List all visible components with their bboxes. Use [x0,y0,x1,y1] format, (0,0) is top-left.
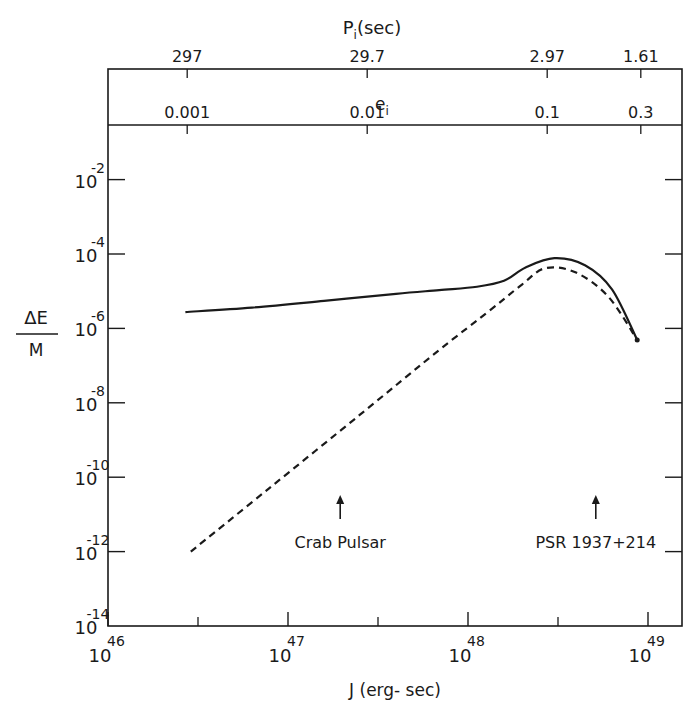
top-axis-period-label: Pi(sec) [343,17,402,42]
top-tick-ecc: 0.001 [164,103,210,122]
y-tick-label: 10-12 [75,532,110,564]
svg-text:-6: -6 [91,308,105,324]
svg-text:Crab Pulsar: Crab Pulsar [294,533,386,552]
annotations: Crab PulsarPSR 1937+214 [294,495,656,552]
svg-text:49: 49 [647,633,665,649]
svg-text:-14: -14 [87,606,110,622]
top-tick-ecc: 0.1 [534,103,559,122]
top-tick-period: 29.7 [349,47,385,66]
top-tick-period: 297 [172,47,203,66]
top-tick-ecc: 0.3 [628,103,653,122]
top-tick-ecc: 0.01 [349,103,385,122]
y-tick-label: 10-8 [75,383,105,415]
svg-text:PSR 1937+214: PSR 1937+214 [535,533,656,552]
svg-text:-12: -12 [87,532,110,548]
svg-text:47: 47 [287,633,305,649]
annotation: PSR 1937+214 [535,495,656,552]
svg-text:ΔE: ΔE [24,307,48,328]
series-dashed [191,267,637,551]
svg-text:-10: -10 [87,457,110,473]
y-axis-label: ΔE M [16,307,58,360]
x-tick-label: 1047 [269,633,305,666]
svg-text:46: 46 [107,633,125,649]
y-tick-label: 10-10 [75,457,110,489]
top-axes: Pi(sec)29729.72.971.61ei0.0010.010.10.3 [164,17,658,134]
series-solid [185,258,637,340]
y-tick-label: 10-2 [75,160,105,192]
y-tick-label: 10-4 [75,234,106,266]
svg-text:-2: -2 [91,160,105,176]
y-tick-label: 10-14 [75,606,110,638]
x-axis-label: J (erg- sec) [348,680,441,700]
svg-text:-8: -8 [91,383,105,399]
x-tick-label: 1049 [629,633,665,666]
svg-text:-4: -4 [91,234,105,250]
y-tick-label: 10-6 [75,308,106,340]
annotation: Crab Pulsar [294,495,386,552]
top-tick-period: 1.61 [623,47,659,66]
svg-text:48: 48 [467,633,485,649]
chart: 1046104710481049 10-210-410-610-810-1010… [0,0,696,708]
series-lines [185,258,639,552]
svg-text:M: M [29,340,44,360]
top-tick-period: 2.97 [529,47,565,66]
x-axis: 1046104710481049 [89,612,665,666]
x-tick-label: 1048 [449,633,485,666]
